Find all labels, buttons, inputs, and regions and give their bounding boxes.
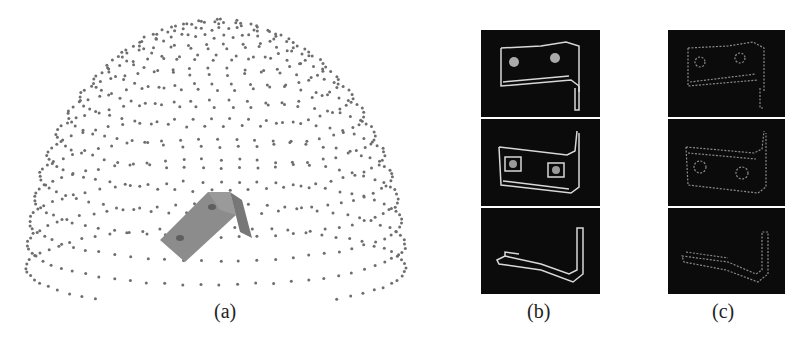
panel-c-sampled-views [668,30,785,294]
view-top-sampled [668,30,785,117]
view-bottom-rendered [481,208,600,294]
panel-b-rendered-views [481,30,600,294]
caption-c: (c) [712,300,734,323]
view-top-rendered [481,30,600,117]
caption-a: (a) [214,300,236,323]
caption-b: (b) [527,300,550,323]
view-middle-rendered [481,119,600,206]
hemisphere-viewpoint-diagram [0,0,460,342]
view-bottom-sampled [668,208,785,294]
view-middle-sampled [668,119,785,206]
viewpoint-dots [24,18,407,301]
part-model [160,192,252,262]
